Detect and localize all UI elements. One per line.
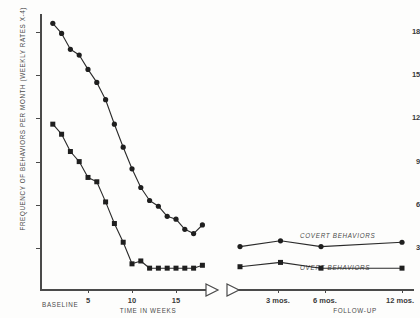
data-point <box>165 266 170 271</box>
data-point <box>85 67 90 72</box>
series-polyline <box>53 23 203 233</box>
series-polyline <box>53 124 203 268</box>
data-point <box>191 266 196 271</box>
series-covert-followup <box>237 238 404 249</box>
data-point <box>278 238 283 243</box>
data-point <box>121 240 126 245</box>
series-overt-followup <box>238 260 405 271</box>
data-point <box>130 261 135 266</box>
data-point <box>50 122 55 127</box>
data-point <box>200 222 205 227</box>
chart-figure: FREQUENCY OF BEHAVIORS PER MONTH (WEEKLY… <box>0 0 420 318</box>
data-point <box>238 264 243 269</box>
data-point <box>59 132 64 137</box>
data-point <box>156 204 161 209</box>
data-point <box>50 21 55 26</box>
data-point <box>68 47 73 52</box>
data-point <box>138 185 143 190</box>
data-point <box>319 266 324 271</box>
data-point <box>182 227 187 232</box>
series-overt-treatment <box>50 122 205 271</box>
data-point <box>59 31 64 36</box>
data-point <box>103 97 108 102</box>
data-point <box>174 266 179 271</box>
data-point <box>112 221 117 226</box>
data-point <box>237 244 242 249</box>
data-point <box>182 266 187 271</box>
data-point <box>400 266 405 271</box>
data-point <box>191 231 196 236</box>
data-point <box>68 149 73 154</box>
data-point <box>138 258 143 263</box>
data-point <box>94 179 99 184</box>
data-point <box>147 198 152 203</box>
data-point <box>173 217 178 222</box>
data-point <box>77 159 82 164</box>
plot-area <box>0 0 420 318</box>
data-point <box>129 166 134 171</box>
data-point <box>200 263 205 268</box>
data-point <box>86 175 91 180</box>
data-point <box>121 145 126 150</box>
data-point <box>156 266 161 271</box>
data-point <box>147 266 152 271</box>
data-point <box>318 244 323 249</box>
data-point <box>399 240 404 245</box>
data-point <box>94 80 99 85</box>
data-point <box>103 199 108 204</box>
data-point <box>77 52 82 57</box>
data-point <box>165 214 170 219</box>
data-point <box>278 260 283 265</box>
data-point <box>112 122 117 127</box>
series-covert-treatment <box>50 21 205 236</box>
